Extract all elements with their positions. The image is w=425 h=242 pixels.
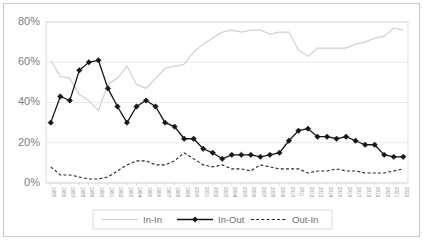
legend-item-in-in[interactable]: In-In xyxy=(143,214,162,225)
x-axis-tick-label: 2017 xyxy=(356,187,361,198)
x-axis-tick-label: 2011 xyxy=(299,187,304,197)
x-axis-tick-label: 2006 xyxy=(251,187,256,198)
x-axis-tick-label: 1991 xyxy=(109,187,114,198)
x-axis-tick-label: 2003 xyxy=(223,187,228,198)
x-axis-tick-label: 1988 xyxy=(80,187,85,198)
x-axis-tick-label: 1996 xyxy=(156,187,161,198)
x-axis-tick-label: 2007 xyxy=(261,187,266,198)
x-axis-tick-label: 2002 xyxy=(213,187,218,198)
x-axis-tick-label: 2000 xyxy=(194,187,199,198)
x-axis-tick-label: 2018 xyxy=(366,187,371,198)
x-axis-tick-label: 1993 xyxy=(128,187,133,198)
x-axis-tick-label: 2019 xyxy=(375,187,380,198)
x-axis-tick-label: 2022 xyxy=(404,187,409,198)
x-axis-tick-label: 2015 xyxy=(337,187,342,198)
y-axis-tick-label: 80% xyxy=(18,15,40,27)
x-axis-tick-label: 1987 xyxy=(70,187,75,198)
x-axis-tick-label: 1994 xyxy=(137,187,142,198)
y-axis-tick-label: 20% xyxy=(18,136,40,148)
x-axis-tick-label: 2012 xyxy=(309,187,314,198)
x-axis-tick-label: 2008 xyxy=(270,187,275,198)
x-axis-tick-label: 2001 xyxy=(204,187,209,198)
x-axis-tick-label: 2021 xyxy=(394,187,399,198)
x-axis-tick-label: 2020 xyxy=(385,187,390,198)
x-axis-tick-label: 1999 xyxy=(185,187,190,198)
legend-item-out-in[interactable]: Out-In xyxy=(292,214,318,225)
x-axis-tick-label: 1986 xyxy=(61,187,66,198)
x-axis-tick-label: 1989 xyxy=(89,187,94,198)
y-axis-tick-label: 40% xyxy=(18,95,40,107)
x-axis-tick-label: 2016 xyxy=(347,187,352,198)
x-axis-tick-label: 1990 xyxy=(99,187,104,198)
x-axis-tick-label: 2009 xyxy=(280,187,285,198)
x-axis-tick-label: 2014 xyxy=(328,187,333,198)
x-axis-tick-label: 2005 xyxy=(242,187,247,198)
x-axis-tick-label: 1998 xyxy=(175,187,180,198)
x-axis-tick-label: 2010 xyxy=(290,187,295,198)
x-axis-tick-label: 1997 xyxy=(166,187,171,198)
line-chart: 0%20%40%60%80%19851986198719881989199019… xyxy=(4,4,421,238)
x-axis-tick-label: 1985 xyxy=(51,187,56,198)
x-axis-tick-label: 1995 xyxy=(147,187,152,198)
y-axis-tick-label: 60% xyxy=(18,55,40,67)
y-axis-tick-label: 0% xyxy=(24,176,40,188)
x-axis-tick-label: 1992 xyxy=(118,187,123,198)
legend-item-in-out[interactable]: In-Out xyxy=(218,214,245,225)
x-axis-tick-label: 2004 xyxy=(232,187,237,198)
x-axis-tick-label: 2013 xyxy=(318,187,323,198)
chart-card: 0%20%40%60%80%19851986198719881989199019… xyxy=(3,3,420,237)
